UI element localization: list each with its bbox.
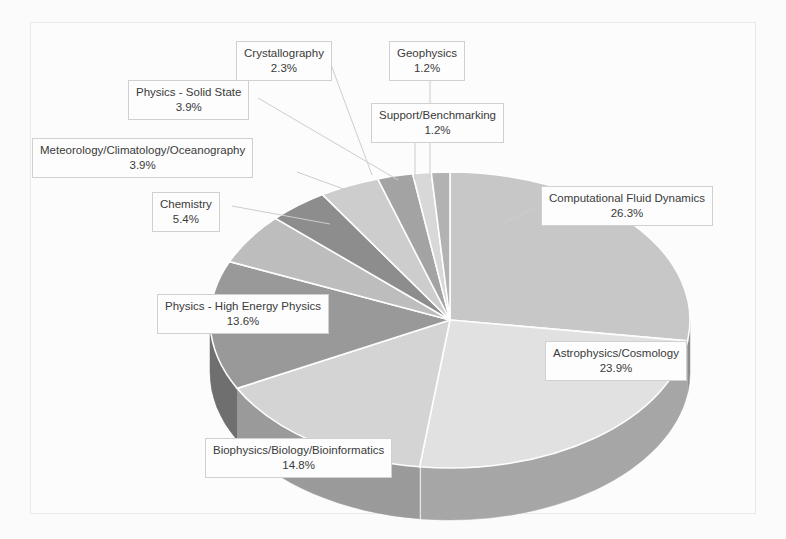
callout-crystallography[interactable]: Crystallography 2.3% [236, 41, 332, 81]
callout-support-benchmarking[interactable]: Support/Benchmarking 1.2% [371, 103, 504, 143]
callout-geophysics[interactable]: Geophysics 1.2% [389, 41, 465, 81]
callout-physics-high-energy-physics[interactable]: Physics - High Energy Physics 13.6% [157, 294, 329, 334]
callout-physics-solid-state-percent: 3.9% [136, 100, 241, 115]
callout-chemistry-percent: 5.4% [160, 212, 212, 227]
callout-geophysics-title: Geophysics [397, 46, 457, 61]
callout-support-benchmarking-percent: 1.2% [379, 123, 496, 138]
callout-computational-fluid-dynamics-percent: 26.3% [549, 206, 705, 221]
callout-computational-fluid-dynamics-title: Computational Fluid Dynamics [549, 191, 705, 206]
callout-physics-solid-state-title: Physics - Solid State [136, 85, 241, 100]
screenshot-root: Crystallography 2.3% Geophysics 1.2% Phy… [0, 0, 786, 539]
callout-support-benchmarking-title: Support/Benchmarking [379, 108, 496, 123]
callout-computational-fluid-dynamics[interactable]: Computational Fluid Dynamics 26.3% [541, 186, 713, 226]
callout-biophysics-biology-bioinformatics[interactable]: Biophysics/Biology/Bioinformatics 14.8% [205, 438, 392, 478]
callout-biophysics-biology-bioinformatics-title: Biophysics/Biology/Bioinformatics [213, 443, 384, 458]
callout-physics-solid-state[interactable]: Physics - Solid State 3.9% [128, 80, 249, 120]
callout-chemistry[interactable]: Chemistry 5.4% [152, 192, 220, 232]
callout-crystallography-title: Crystallography [244, 46, 324, 61]
callout-crystallography-percent: 2.3% [244, 61, 324, 76]
callout-astrophysics-cosmology-percent: 23.9% [553, 361, 679, 376]
callout-physics-high-energy-physics-title: Physics - High Energy Physics [165, 299, 321, 314]
callout-chemistry-title: Chemistry [160, 197, 212, 212]
callout-meteorology-percent: 3.9% [40, 158, 245, 173]
callout-geophysics-percent: 1.2% [397, 61, 457, 76]
callout-meteorology-title: Meteorology/Climatology/Oceanography [40, 143, 245, 158]
callout-astrophysics-cosmology[interactable]: Astrophysics/Cosmology 23.9% [545, 341, 687, 381]
callout-physics-high-energy-physics-percent: 13.6% [165, 314, 321, 329]
callout-biophysics-biology-bioinformatics-percent: 14.8% [213, 458, 384, 473]
callout-meteorology[interactable]: Meteorology/Climatology/Oceanography 3.9… [32, 138, 253, 178]
callout-astrophysics-cosmology-title: Astrophysics/Cosmology [553, 346, 679, 361]
leader-line-crystallography [330, 62, 372, 175]
